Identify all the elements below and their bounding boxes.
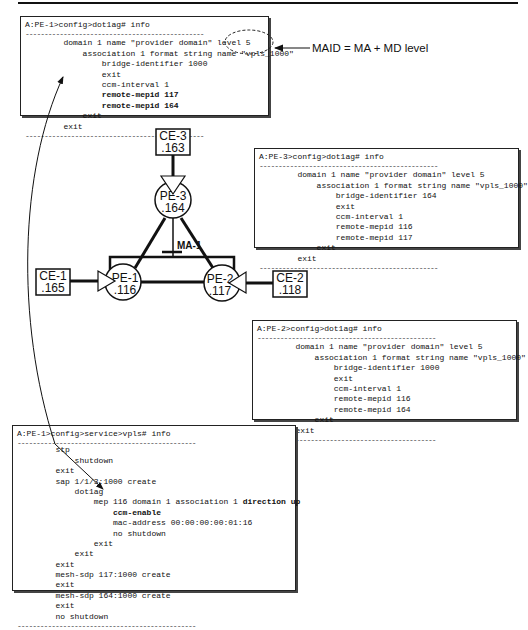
svg-text:.165: .165 [41, 281, 65, 295]
svg-text:.116: .116 [114, 283, 137, 297]
links [70, 155, 273, 283]
svg-text:.164: .164 [161, 201, 185, 215]
reference-curve-arrow [28, 77, 63, 444]
divider: ----------------------------------------… [17, 622, 291, 630]
maid-highlight-ellipse [225, 30, 273, 54]
svg-text:.117: .117 [209, 284, 232, 298]
ce-2-node: CE-2 .118 [273, 271, 307, 297]
ce-1-node: CE-1 .165 [36, 269, 70, 295]
cli-line: no shutdown [17, 612, 291, 622]
pe-1-node: PE-1 .116 [98, 264, 141, 300]
pe-2-node: PE-2 .117 [204, 265, 246, 301]
pe-3-node: PE-3 .164 [155, 176, 191, 218]
ce-3-node: CE-3 .163 [156, 129, 190, 155]
svg-text:.163: .163 [161, 141, 185, 155]
ma-1-label: MA-1 [177, 240, 202, 251]
svg-text:.118: .118 [279, 283, 302, 297]
mep-pointer-arrow [55, 444, 103, 489]
